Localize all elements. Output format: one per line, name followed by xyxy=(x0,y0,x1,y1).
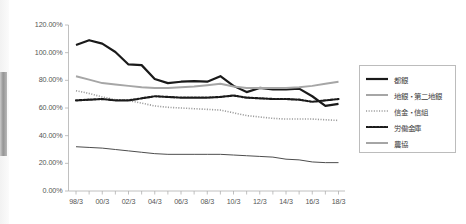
legend-line-swatch-icon xyxy=(366,90,388,100)
x-axis-tick-label: 18/3 xyxy=(323,197,355,206)
legend-item-label: 地銀・第二地銀 xyxy=(394,90,442,101)
chart-legend: 都銀地銀・第二地銀信金・信組労働金庫農協 xyxy=(359,65,456,153)
chart-root: 0.00%20.00%40.00%60.00%80.00%100.00%120.… xyxy=(0,0,466,224)
legend-item[interactable]: 都銀 xyxy=(360,71,455,87)
legend-item[interactable]: 農協 xyxy=(360,135,455,151)
series-line-0 xyxy=(76,40,339,106)
legend-line-swatch-icon xyxy=(366,74,388,84)
y-axis-tick-label: 100.00% xyxy=(13,48,63,57)
legend-line-swatch-icon xyxy=(366,122,388,132)
legend-item-label: 都銀 xyxy=(394,74,408,85)
legend-item-label: 労働金庫 xyxy=(394,122,421,133)
y-axis-tick-label: 60.00% xyxy=(13,103,63,112)
legend-line-swatch-icon xyxy=(366,138,388,148)
legend-item[interactable]: 信金・信組 xyxy=(360,103,455,119)
series-line-4 xyxy=(76,147,339,163)
y-axis-tick-label: 120.00% xyxy=(13,20,63,29)
legend-item[interactable]: 地銀・第二地銀 xyxy=(360,87,455,103)
series-line-2 xyxy=(76,91,339,121)
y-axis-tick-label: 40.00% xyxy=(13,131,63,140)
legend-item[interactable]: 労働金庫 xyxy=(360,119,455,135)
y-axis-tick-label: 0.00% xyxy=(13,186,63,195)
y-axis-tick-label: 20.00% xyxy=(13,158,63,167)
legend-item-label: 信金・信組 xyxy=(394,106,428,117)
legend-line-swatch-icon xyxy=(366,106,388,116)
legend-item-label: 農協 xyxy=(394,138,408,149)
y-axis-tick-label: 80.00% xyxy=(13,75,63,84)
series-line-3 xyxy=(76,96,339,102)
